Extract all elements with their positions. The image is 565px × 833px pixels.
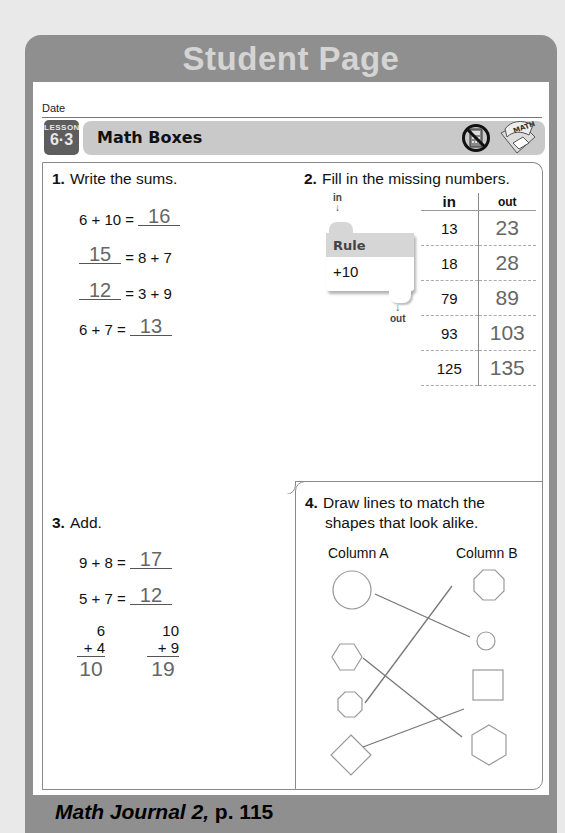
answer-blank[interactable]: 12 (79, 281, 121, 300)
addend-bottom: + 4 (77, 639, 105, 657)
equation-left: 6 + 10 = (79, 211, 134, 228)
sum-answer[interactable]: 10 (77, 657, 105, 681)
column-a-hexagon[interactable] (332, 644, 362, 670)
problem-2-box: 2.Fill in the missing numbers. in ↓ Rule… (295, 162, 543, 482)
out-cell[interactable]: 23 (478, 211, 536, 246)
lesson-badge: LESSON 6·3 (44, 120, 79, 155)
rule-title: Rule (326, 233, 414, 257)
table-row: 125 135 (421, 351, 536, 386)
equation-row: 6 + 10 = 16 (79, 207, 180, 228)
table-row: 18 28 (421, 246, 536, 281)
in-cell: 13 (421, 211, 478, 246)
math-journal-icon: MATH (495, 117, 539, 157)
column-header-in: in (421, 193, 478, 211)
problem-instruction: Write the sums. (70, 170, 177, 187)
header-bar: Student Page (25, 35, 557, 82)
match-line (363, 658, 462, 737)
answer-blank[interactable]: 17 (130, 550, 172, 569)
in-cell: 93 (421, 316, 478, 351)
problem-1-heading: 1.Write the sums. (52, 170, 177, 188)
column-b-hexagon[interactable] (472, 725, 506, 765)
equation-right: = 8 + 7 (125, 249, 172, 266)
column-b-square[interactable] (473, 670, 503, 700)
column-a-octagon[interactable] (338, 692, 362, 717)
rule-box: Rule +10 (326, 233, 414, 291)
problem-number: 3. (52, 514, 65, 531)
out-cell[interactable]: 28 (478, 246, 536, 281)
equation-left: 5 + 7 = (79, 590, 126, 607)
problem-number: 2. (304, 170, 317, 187)
journal-title: Math Journal 2, (55, 800, 209, 823)
column-b-octagon[interactable] (474, 570, 504, 600)
equation-row: 9 + 8 = 17 (79, 550, 172, 571)
match-line (375, 594, 470, 637)
lesson-title: Math Boxes (97, 128, 202, 147)
problem-2-heading: 2.Fill in the missing numbers. (304, 170, 510, 188)
in-out-table: in out 13 23 18 28 79 89 (421, 193, 536, 386)
in-cell: 125 (421, 351, 478, 386)
worksheet: Date LESSON 6·3 Math Boxes MATH (33, 82, 549, 795)
table-row: 79 89 (421, 281, 536, 316)
in-cell: 79 (421, 281, 478, 316)
equation-row: 12 = 3 + 9 (79, 281, 172, 302)
student-page-card: Student Page Date LESSON 6·3 Math Boxes (25, 35, 557, 833)
equation-row: 5 + 7 = 12 (79, 586, 172, 607)
vertical-addition: 10 + 9 19 (147, 622, 179, 681)
equation-right: = 3 + 9 (125, 285, 172, 302)
column-b-circle-small[interactable] (477, 632, 495, 650)
rule-in-arrow: in ↓ (333, 192, 342, 213)
addend-top: 6 (77, 622, 105, 639)
addend-bottom: + 9 (147, 639, 179, 657)
page: Student Page Date LESSON 6·3 Math Boxes (0, 0, 565, 833)
out-cell[interactable]: 135 (478, 351, 536, 386)
rule-box-output-notch (389, 291, 411, 303)
date-label: Date (42, 102, 65, 114)
journal-reference: Math Journal 2, p. 115 (55, 800, 273, 824)
vertical-addition: 6 + 4 10 (77, 622, 105, 681)
rule-out-arrow: ↓ out (390, 303, 406, 324)
equation-row: 6 + 7 = 13 (79, 317, 172, 338)
match-line (363, 709, 464, 747)
column-a-diamond[interactable] (331, 735, 371, 775)
table-row: 13 23 (421, 211, 536, 246)
table-row: 93 103 (421, 316, 536, 351)
arrow-down-icon: ↓ (390, 303, 406, 313)
problem-instruction: Add. (70, 514, 102, 531)
problem-3-heading: 3.Add. (52, 514, 102, 532)
math-boxes-grid: 1.Write the sums. 6 + 10 = 16 15 = 8 + 7… (42, 162, 543, 790)
problem-1-box: 1.Write the sums. 6 + 10 = 16 15 = 8 + 7… (42, 162, 296, 495)
column-a-circle-large[interactable] (333, 571, 371, 609)
date-field[interactable]: Date (42, 98, 542, 118)
shape-matching-diagram (296, 482, 544, 791)
problem-number: 1. (52, 170, 65, 187)
answer-blank[interactable]: 12 (130, 586, 172, 605)
arrow-down-icon: ↓ (333, 203, 342, 213)
problem-instruction: Fill in the missing numbers. (322, 170, 510, 187)
no-calculator-icon (461, 123, 491, 153)
in-cell: 18 (421, 246, 478, 281)
lesson-number: 6·3 (44, 131, 79, 149)
addend-top: 10 (147, 622, 179, 639)
answer-blank[interactable]: 16 (138, 207, 180, 226)
problem-3-box: 3.Add. 9 + 8 = 17 5 + 7 = 12 6 + 4 10 (42, 494, 296, 790)
lesson-title-bar: Math Boxes MATH (83, 121, 545, 155)
out-cell[interactable]: 89 (478, 281, 536, 316)
table-header-row: in out (421, 193, 536, 211)
answer-blank[interactable]: 15 (79, 245, 121, 264)
equation-left: 6 + 7 = (79, 321, 126, 338)
equation-row: 15 = 8 + 7 (79, 245, 172, 266)
answer-blank[interactable]: 13 (130, 317, 172, 336)
equation-left: 9 + 8 = (79, 554, 126, 571)
problem-4-box: 4.Draw lines to match the shapes that lo… (295, 481, 543, 790)
match-line (365, 586, 452, 703)
out-cell[interactable]: 103 (478, 316, 536, 351)
page-title: Student Page (183, 40, 400, 77)
rule-out-label: out (390, 313, 406, 324)
footer-bar: Math Journal 2, p. 115 (25, 795, 557, 833)
match-lines (363, 586, 470, 747)
rule-value: +10 (326, 257, 414, 280)
column-header-out: out (478, 193, 536, 211)
page-reference: p. 115 (209, 800, 273, 823)
sum-answer[interactable]: 19 (147, 657, 179, 681)
